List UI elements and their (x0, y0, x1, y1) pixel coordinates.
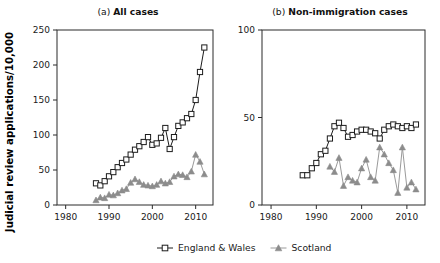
data-point-marker (359, 165, 365, 171)
panel-non-immigration-cases: (b) Non-immigration cases 050100 1980199… (238, 6, 425, 222)
data-point-marker (381, 151, 387, 157)
data-point-marker (336, 155, 342, 161)
legend-marker-open-square-icon (162, 245, 168, 251)
y-tick-label: 200 (33, 60, 50, 70)
legend-symbol-1 (157, 245, 173, 251)
data-point-marker (327, 163, 333, 169)
legend-symbol-2 (271, 245, 287, 251)
data-point-marker (158, 135, 163, 140)
y-tick-label: 50 (244, 113, 256, 123)
plot-frame (262, 30, 425, 205)
data-point-marker (327, 136, 332, 141)
x-tick-label: 2000 (350, 212, 373, 222)
data-point-marker (163, 125, 168, 130)
data-point-marker (305, 173, 310, 178)
panel-a-x-tick-labels: 1980199020002010 (54, 212, 207, 222)
data-point-marker (345, 174, 351, 180)
data-point-marker (167, 146, 172, 151)
data-point-marker (336, 120, 341, 125)
data-point-marker (408, 179, 414, 185)
data-point-marker (309, 166, 314, 171)
figure-container: Judicial review applications/10,000 (a) … (0, 0, 440, 263)
data-point-marker (145, 135, 150, 140)
data-point-marker (197, 159, 203, 165)
y-tick-label: 50 (39, 165, 51, 175)
y-tick-label: 150 (33, 95, 50, 105)
data-point-marker (197, 69, 202, 74)
y-tick-label: 0 (44, 200, 50, 210)
data-point-marker (341, 125, 346, 130)
data-point-marker (399, 144, 405, 150)
panel-a-series-group (93, 45, 208, 203)
panel-b-axes (258, 30, 425, 209)
data-point-marker (340, 183, 346, 189)
panel-b-y-tick-labels: 050100 (238, 25, 255, 210)
y-tick-label: 100 (33, 130, 50, 140)
y-axis-title: Judicial review applications/10,000 (4, 32, 15, 233)
x-tick-label: 2010 (184, 212, 207, 222)
panel-a-title: (a) All cases (97, 6, 159, 17)
data-point-marker (188, 168, 194, 174)
legend-label-1: England & Wales (178, 242, 256, 253)
data-point-marker (386, 160, 392, 166)
data-point-marker (395, 190, 401, 196)
data-point-marker (171, 135, 176, 140)
data-point-marker (368, 174, 374, 180)
data-point-marker (201, 171, 207, 177)
chart-legend: England & WalesScotland (157, 242, 331, 253)
data-point-marker (363, 156, 369, 162)
data-point-marker (377, 136, 382, 141)
legend-label-2: Scotland (292, 242, 332, 253)
data-point-marker (413, 122, 418, 127)
x-tick-label: 1980 (260, 212, 283, 222)
data-point-marker (373, 131, 378, 136)
panel-b-title: (b) Non-immigration cases (272, 6, 408, 17)
data-point-marker (158, 178, 164, 184)
data-point-marker (193, 152, 199, 158)
x-tick-label: 1980 (54, 212, 77, 222)
data-point-marker (132, 176, 138, 182)
data-point-marker (154, 141, 159, 146)
y-tick-label: 100 (238, 25, 255, 35)
data-point-marker (390, 167, 396, 173)
data-point-marker (323, 148, 328, 153)
panel-b-series-group (300, 120, 419, 195)
y-tick-label: 250 (33, 25, 50, 35)
data-point-marker (123, 186, 129, 192)
data-point-marker (314, 160, 319, 165)
y-tick-label: 0 (249, 200, 255, 210)
panel-all-cases: (a) All cases 050100150200250 1980199020… (33, 6, 213, 222)
panel-a-y-tick-labels: 050100150200250 (33, 25, 50, 210)
x-tick-label: 2000 (141, 212, 164, 222)
data-point-marker (193, 97, 198, 102)
data-point-marker (413, 186, 419, 192)
x-tick-label: 1990 (98, 212, 121, 222)
data-point-marker (202, 45, 207, 50)
data-point-marker (377, 144, 383, 150)
x-tick-label: 1990 (305, 212, 328, 222)
data-point-marker (189, 111, 194, 116)
x-tick-label: 2010 (395, 212, 418, 222)
panel-b-x-tick-labels: 1980199020002010 (260, 212, 419, 222)
chart-svg: Judicial review applications/10,000 (a) … (0, 0, 440, 263)
